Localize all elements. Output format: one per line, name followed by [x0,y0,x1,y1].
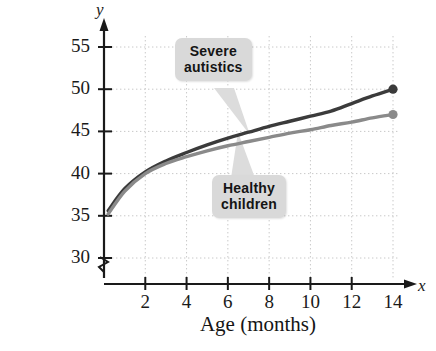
annotation-severe-line1: Severe [184,43,243,59]
x-axis-symbol: x [418,276,426,296]
series-endpoint-marker [388,85,397,94]
y-tick-label: 40 [56,162,90,184]
y-tick-label: 50 [56,77,90,99]
annotation-healthy-line1: Healthy [221,180,277,196]
x-axis-arrowhead [404,280,417,289]
series-endpoint-markers [388,85,397,120]
x-tick-label: 12 [339,291,365,313]
callout-tail-severe [214,88,250,135]
x-tick-label: 8 [256,291,282,313]
annotation-healthy-children: Healthy children [212,175,286,218]
callout-tail-healthy [231,132,255,178]
y-axis-symbol: y [96,0,104,20]
annotation-severe-autistics: Severe autistics [175,38,252,81]
x-tick-label: 4 [174,291,200,313]
x-tick-label: 14 [380,291,406,313]
x-tick-label: 2 [132,291,158,313]
annotation-severe-line2: autistics [184,59,243,75]
annotation-healthy-line2: children [221,196,277,212]
y-tick-label: 30 [56,246,90,268]
y-tick-label: 55 [56,35,90,57]
y-tick-label: 45 [56,119,90,141]
x-tick-label: 6 [215,291,241,313]
y-tick-label: 35 [56,204,90,226]
chart-figure: y x 303540455055 2468101214 Head Circumf… [0,0,436,351]
series-endpoint-marker [388,110,397,119]
x-tick-label: 10 [297,291,323,313]
x-axis-title: Age (months) [108,312,408,337]
